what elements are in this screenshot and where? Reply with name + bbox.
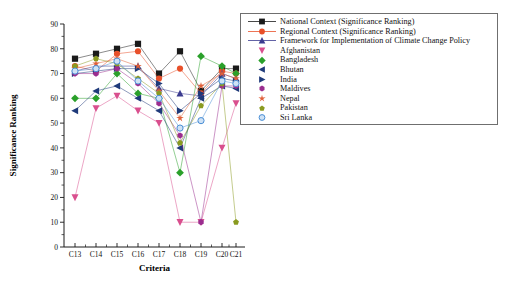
series-line (75, 59, 236, 223)
legend-label: Maldives (277, 84, 310, 94)
marker-triangle-down (72, 194, 79, 201)
marker-circle (259, 28, 265, 34)
legend-item-india[interactable]: India (247, 75, 493, 85)
marker-circle-open (156, 95, 162, 101)
legend-label: National Context (Significance Ranking) (277, 17, 414, 27)
legend-label: Sri Lanka (277, 113, 312, 123)
marker-diamond (92, 94, 100, 102)
legend-label: Pakistan (277, 103, 308, 113)
x-tick-label: C19 (195, 250, 208, 259)
marker-pentagon (233, 219, 239, 225)
legend-item-afghanistan[interactable]: Afghanistan (247, 46, 493, 56)
marker-triangle-left (259, 66, 265, 73)
marker-star (258, 95, 265, 102)
marker-circle (135, 48, 141, 54)
x-tick-label: C13 (69, 250, 82, 259)
marker-circle-open (72, 68, 78, 74)
marker-triangle-down (93, 105, 100, 112)
legend-marker-hexagon-icon (247, 84, 277, 93)
series-afghanistan (72, 93, 240, 226)
x-tick-label: C20 (216, 250, 229, 259)
x-tick-label: C21 (230, 250, 243, 259)
y-tick-label: 90 (51, 20, 59, 29)
legend-item-regional-context-significance-ranking[interactable]: Regional Context (Significance Ranking) (247, 27, 493, 37)
series-nepal (71, 55, 240, 122)
legend-marker-triangle-left-icon (247, 65, 277, 74)
x-axis-title: Criteria (139, 263, 170, 273)
marker-circle-open (233, 80, 239, 86)
legend-marker-circle-open-icon (247, 113, 277, 122)
marker-circle-open (177, 125, 183, 131)
significance-ranking-line-chart: 0102030405060708090C13C14C15C16C17C18C19… (0, 0, 250, 289)
y-tick-label: 20 (51, 193, 59, 202)
marker-square (259, 19, 265, 25)
marker-hexagon (177, 132, 182, 138)
marker-triangle-left (113, 82, 120, 89)
marker-circle-open (198, 118, 204, 124)
y-tick-label: 60 (51, 94, 59, 103)
x-tick-label: C18 (174, 250, 187, 259)
legend-marker-triangle-down-icon (247, 46, 277, 55)
x-tick-label: C17 (153, 250, 166, 259)
marker-circle (177, 66, 183, 72)
marker-diamond (258, 56, 265, 63)
marker-triangle-down (259, 48, 266, 54)
x-tick-label: C14 (90, 250, 103, 259)
marker-pentagon (177, 140, 183, 146)
legend-label: Nepal (277, 94, 300, 104)
marker-triangle-down (177, 219, 184, 226)
marker-triangle-down (219, 145, 226, 152)
marker-triangle-down (114, 93, 121, 100)
chart-panel: 0102030405060708090C13C14C15C16C17C18C19… (0, 0, 250, 289)
marker-triangle-down (135, 108, 142, 115)
marker-star (176, 114, 184, 121)
legend-marker-circle-icon (247, 27, 277, 36)
legend-marker-triangle-up-icon (247, 36, 277, 45)
marker-hexagon (259, 86, 264, 92)
legend-item-sri-lanka[interactable]: Sri Lanka (247, 113, 493, 123)
legend-label: India (277, 75, 297, 85)
y-tick-label: 30 (51, 168, 59, 177)
legend-marker-star-icon (247, 94, 277, 103)
legend-marker-diamond-icon (247, 56, 277, 65)
marker-triangle-left (71, 107, 78, 114)
marker-circle-open (93, 66, 99, 72)
marker-circle-open (114, 58, 120, 64)
marker-triangle-down (156, 120, 163, 127)
legend-item-nepal[interactable]: Nepal (247, 94, 493, 104)
series-bhutan (71, 82, 239, 151)
marker-diamond (71, 94, 79, 102)
series-line (75, 96, 236, 222)
legend-item-maldives[interactable]: Maldives (247, 84, 493, 94)
legend-item-pakistan[interactable]: Pakistan (247, 103, 493, 113)
chart-legend: National Context (Significance Ranking)R… (240, 13, 498, 125)
chart-screenshot: 0102030405060708090C13C14C15C16C17C18C19… (0, 0, 505, 289)
marker-diamond (197, 52, 205, 60)
marker-triangle-down (233, 100, 240, 107)
legend-item-national-context-significance-ranking[interactable]: National Context (Significance Ranking) (247, 17, 493, 27)
legend-label: Bangladesh (277, 55, 318, 65)
legend-item-bangladesh[interactable]: Bangladesh (247, 55, 493, 65)
x-tick-label: C15 (111, 250, 124, 259)
marker-pentagon (259, 105, 265, 110)
legend-label: Afghanistan (277, 46, 320, 56)
legend-marker-square-icon (247, 17, 277, 26)
marker-triangle-right (259, 76, 265, 83)
legend-item-framework-for-implementation-of-climate-change-policy[interactable]: Framework for Implementation of Climate … (247, 36, 493, 46)
y-tick-label: 0 (54, 243, 58, 252)
series-line (75, 69, 236, 111)
legend-marker-triangle-right-icon (247, 75, 277, 84)
marker-square (135, 41, 141, 47)
y-tick-label: 40 (51, 144, 59, 153)
y-axis-title: Significance Ranking (8, 94, 18, 176)
y-tick-label: 70 (51, 69, 59, 78)
marker-square (72, 56, 78, 62)
y-tick-label: 50 (51, 119, 59, 128)
y-tick-label: 10 (51, 218, 59, 227)
legend-item-bhutan[interactable]: Bhutan (247, 65, 493, 75)
y-tick-label: 80 (51, 45, 59, 54)
legend-label: Framework for Implementation of Climate … (277, 36, 470, 46)
x-tick-label: C16 (132, 250, 145, 259)
legend-marker-pentagon-icon (247, 104, 277, 113)
marker-triangle-left (155, 107, 162, 114)
